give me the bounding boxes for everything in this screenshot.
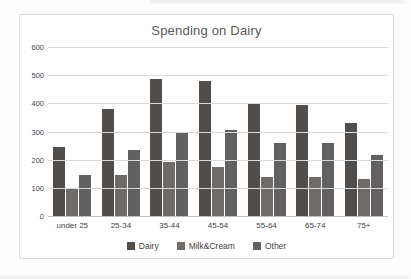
y-tick-label-200: 200 [20, 156, 44, 165]
x-label-75+: 75+ [339, 221, 388, 230]
x-label-35-44: 35-44 [145, 221, 194, 230]
bar-MilkandCream-65-74 [309, 177, 321, 216]
x-axis-labels: under 2525-3435-4445-5455-6465-7475+ [48, 221, 388, 230]
legend-swatch-icon [127, 242, 135, 250]
gridline-200 [48, 160, 388, 161]
bar-MilkandCream-35-44 [163, 162, 175, 216]
x-label-65-74: 65-74 [291, 221, 340, 230]
screenshot-root: Spending on Dairy 6005004003002001000 un… [0, 0, 411, 279]
legend-swatch-icon [253, 242, 261, 250]
bar-Other-75+ [371, 155, 383, 216]
bar-Other-under-25 [79, 175, 91, 216]
x-label-55-64: 55-64 [242, 221, 291, 230]
bar-Other-55-64 [274, 143, 286, 216]
bar-MilkandCream-55-64 [261, 177, 273, 216]
chart-frame: Spending on Dairy 6005004003002001000 un… [19, 14, 394, 259]
bar-Other-65-74 [322, 143, 334, 216]
legend-item-Dairy: Dairy [127, 241, 159, 251]
y-tick-label-400: 400 [20, 99, 44, 108]
bar-MilkandCream-75+ [358, 179, 370, 216]
legend-label: Dairy [139, 241, 159, 251]
bar-Dairy-75+ [345, 123, 357, 216]
y-tick-label-600: 600 [20, 43, 44, 52]
y-tick-label-100: 100 [20, 184, 44, 193]
legend: DairyMilk&CreamOther [20, 241, 393, 251]
gridline-600 [48, 47, 388, 48]
bar-Dairy-35-44 [150, 79, 162, 216]
bar-MilkandCream-45-54 [212, 167, 224, 216]
legend-label: Milk&Cream [189, 241, 235, 251]
y-tick-label-500: 500 [20, 71, 44, 80]
bar-Dairy-45-54 [199, 81, 211, 216]
gridline-300 [48, 132, 388, 133]
chart-title: Spending on Dairy [20, 23, 393, 38]
bar-Other-45-54 [225, 130, 237, 216]
gridline-400 [48, 103, 388, 104]
bar-Dairy-under-25 [53, 147, 65, 216]
legend-item-MilkandCream: Milk&Cream [177, 241, 235, 251]
gridline-500 [48, 75, 388, 76]
scan-artifact-top [150, 0, 405, 3]
x-axis-line [48, 216, 388, 217]
legend-swatch-icon [177, 242, 185, 250]
bar-MilkandCream-25-34 [115, 175, 127, 216]
bar-Other-35-44 [176, 133, 188, 216]
bar-MilkandCream-under-25 [66, 189, 78, 216]
x-label-25-34: 25-34 [97, 221, 146, 230]
plot-area [48, 47, 388, 216]
x-label-under-25: under 25 [48, 221, 97, 230]
legend-item-Other: Other [253, 241, 286, 251]
y-tick-label-0: 0 [20, 212, 44, 221]
gridline-100 [48, 188, 388, 189]
x-label-45-54: 45-54 [194, 221, 243, 230]
bar-Dairy-25-34 [102, 109, 114, 216]
y-tick-label-300: 300 [20, 128, 44, 137]
legend-label: Other [265, 241, 286, 251]
